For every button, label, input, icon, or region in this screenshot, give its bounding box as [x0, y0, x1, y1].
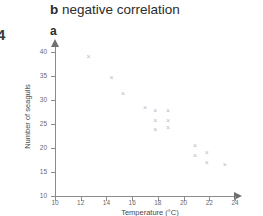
data-point: ×	[192, 152, 199, 159]
y-tick-label: 40	[33, 49, 47, 56]
y-tick-label: 20	[33, 145, 47, 152]
y-tick-label-wrap: 35	[33, 73, 47, 74]
x-tick-label: 12	[72, 200, 90, 207]
x-axis-title: Temperature (°C)	[95, 208, 205, 216]
y-tick-mark	[51, 76, 56, 77]
y-axis-title: Number of seagulls	[23, 62, 32, 172]
x-tick-label: 16	[123, 200, 141, 207]
data-point: ×	[85, 53, 92, 60]
data-point: ×	[165, 107, 172, 114]
x-tick-label: 20	[175, 200, 193, 207]
data-point: ×	[203, 149, 210, 156]
data-point: ×	[203, 159, 210, 166]
y-tick-mark	[51, 172, 56, 173]
data-point: ×	[152, 107, 159, 114]
y-tick-label-wrap: 10	[33, 193, 47, 194]
y-axis-line	[55, 46, 56, 197]
x-axis-line	[55, 196, 235, 197]
y-tick-mark	[51, 124, 56, 125]
y-tick-mark	[51, 52, 56, 53]
x-tick-label: 22	[200, 200, 218, 207]
data-point: ×	[192, 142, 199, 149]
x-tick-label: 18	[149, 200, 167, 207]
y-tick-label: 35	[33, 73, 47, 80]
data-point: ×	[142, 104, 149, 111]
data-point: ×	[165, 124, 172, 131]
data-point: ×	[221, 161, 228, 168]
y-tick-label: 15	[33, 169, 47, 176]
y-tick-label: 30	[33, 97, 47, 104]
y-tick-mark	[51, 100, 56, 101]
y-tick-label: 25	[33, 121, 47, 128]
y-tick-mark	[51, 148, 56, 149]
y-tick-label-wrap: 30	[33, 97, 47, 98]
data-point: ×	[108, 74, 115, 81]
y-tick-label: 10	[33, 193, 47, 200]
y-tick-label-wrap: 25	[33, 121, 47, 122]
x-tick-label: 24	[226, 200, 244, 207]
data-point: ×	[165, 117, 172, 124]
y-tick-label-wrap: 20	[33, 145, 47, 146]
x-tick-label: 14	[97, 200, 115, 207]
x-tick-label: 10	[46, 200, 64, 207]
plot-area: 10152025303540 1012141618202224 ××××××××…	[0, 0, 263, 216]
y-axis-arrow-icon	[51, 39, 59, 47]
data-point: ×	[152, 126, 159, 133]
y-tick-label-wrap: 15	[33, 169, 47, 170]
y-tick-label-wrap: 40	[33, 49, 47, 50]
data-point: ×	[152, 117, 159, 124]
data-point: ×	[120, 90, 127, 97]
scatter-plot-figure: 4 b negative correlation a 1015202530354…	[0, 0, 263, 216]
